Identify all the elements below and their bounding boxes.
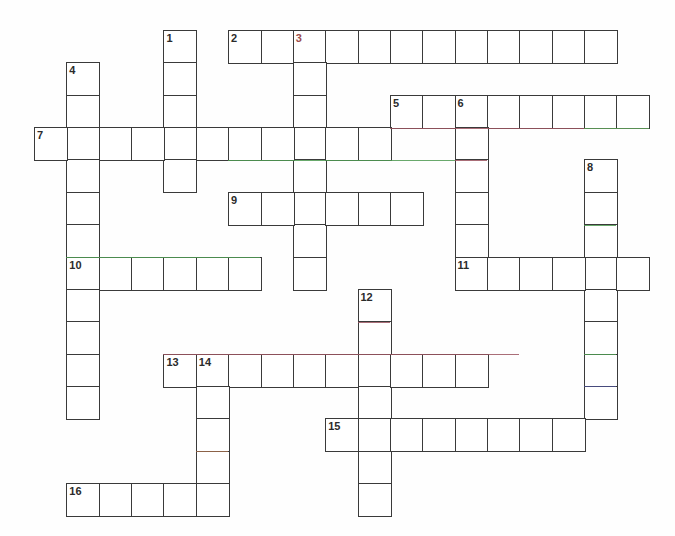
crossword-cell[interactable] — [196, 418, 230, 452]
crossword-cell[interactable] — [163, 95, 197, 129]
crossword-cell[interactable] — [66, 95, 100, 129]
crossword-grid[interactable]: 12345678910111213141516 — [0, 0, 675, 536]
crossword-cell[interactable] — [293, 354, 327, 388]
crossword-cell[interactable] — [228, 127, 262, 161]
crossword-cell[interactable] — [131, 127, 165, 161]
crossword-cell[interactable] — [616, 95, 650, 129]
clue-number: 5 — [393, 97, 399, 109]
crossword-cell[interactable] — [228, 354, 262, 388]
crossword-cell[interactable] — [163, 257, 197, 291]
crossword-cell[interactable] — [455, 224, 489, 258]
crossword-cell[interactable] — [293, 127, 327, 161]
crossword-cell[interactable] — [455, 159, 489, 193]
crossword-cell[interactable] — [390, 354, 424, 388]
crossword-cell[interactable] — [196, 451, 230, 485]
crossword-cell[interactable] — [66, 192, 100, 226]
clue-number: 6 — [458, 97, 464, 109]
crossword-cell[interactable] — [390, 192, 424, 226]
clue-number: 11 — [458, 259, 470, 271]
crossword-cell[interactable] — [552, 95, 586, 129]
crossword-cell[interactable] — [261, 192, 295, 226]
crossword-cell[interactable] — [455, 30, 489, 64]
crossword-cell[interactable] — [584, 289, 618, 323]
crossword-cell[interactable] — [325, 354, 359, 388]
crossword-cell[interactable] — [196, 386, 230, 420]
crossword-cell[interactable] — [325, 30, 359, 64]
crossword-cell[interactable] — [455, 354, 489, 388]
crossword-cell[interactable] — [487, 30, 521, 64]
crossword-cell[interactable] — [131, 483, 165, 517]
crossword-cell[interactable] — [66, 321, 100, 355]
crossword-cell[interactable] — [358, 127, 392, 161]
crossword-cell[interactable] — [519, 95, 553, 129]
crossword-cell[interactable] — [293, 159, 327, 193]
crossword-cell[interactable] — [261, 127, 295, 161]
crossword-cell[interactable] — [261, 354, 295, 388]
crossword-cell[interactable] — [196, 127, 230, 161]
crossword-cell[interactable] — [519, 257, 553, 291]
crossword-cell[interactable] — [358, 386, 392, 420]
crossword-cell[interactable] — [163, 127, 197, 161]
crossword-cell[interactable] — [519, 418, 553, 452]
crossword-cell[interactable] — [358, 192, 392, 226]
crossword-cell[interactable] — [163, 62, 197, 96]
crossword-cell[interactable] — [487, 257, 521, 291]
crossword-cell[interactable] — [66, 127, 100, 161]
crossword-cell[interactable] — [552, 257, 586, 291]
crossword-cell[interactable] — [99, 483, 133, 517]
crossword-cell[interactable] — [584, 321, 618, 355]
crossword-cell[interactable] — [390, 418, 424, 452]
crossword-cell[interactable] — [358, 354, 392, 388]
crossword-cell[interactable] — [422, 418, 456, 452]
crossword-cell[interactable] — [584, 224, 618, 258]
crossword-cell[interactable] — [358, 418, 392, 452]
crossword-cell[interactable] — [261, 30, 295, 64]
crossword-cell[interactable] — [390, 30, 424, 64]
clue-number: 15 — [328, 420, 340, 432]
crossword-cell[interactable] — [422, 95, 456, 129]
crossword-cell[interactable] — [422, 354, 456, 388]
crossword-cell[interactable] — [66, 386, 100, 420]
crossword-cell[interactable] — [163, 159, 197, 193]
crossword-cell[interactable] — [99, 127, 133, 161]
crossword-cell[interactable] — [293, 62, 327, 96]
crossword-cell[interactable] — [584, 386, 618, 420]
crossword-cell[interactable] — [293, 224, 327, 258]
crossword-cell[interactable] — [66, 289, 100, 323]
crossword-cell[interactable] — [487, 418, 521, 452]
crossword-cell[interactable] — [422, 30, 456, 64]
crossword-cell[interactable] — [584, 95, 618, 129]
crossword-cell[interactable] — [293, 257, 327, 291]
crossword-cell[interactable] — [358, 483, 392, 517]
crossword-cell[interactable] — [66, 354, 100, 388]
crossword-cell[interactable] — [519, 30, 553, 64]
crossword-cell[interactable] — [455, 418, 489, 452]
crossword-cell[interactable] — [131, 257, 165, 291]
crossword-cell[interactable] — [196, 483, 230, 517]
crossword-cell[interactable] — [358, 30, 392, 64]
crossword-cell[interactable] — [358, 451, 392, 485]
crossword-cell[interactable] — [196, 257, 230, 291]
crossword-cell[interactable] — [358, 321, 392, 355]
crossword-cell[interactable] — [66, 159, 100, 193]
crossword-cell[interactable] — [552, 30, 586, 64]
crossword-cell[interactable] — [584, 192, 618, 226]
crossword-cell[interactable] — [325, 127, 359, 161]
clue-number: 4 — [69, 64, 75, 76]
crossword-cell[interactable] — [228, 257, 262, 291]
crossword-cell[interactable] — [99, 257, 133, 291]
crossword-cell[interactable] — [487, 95, 521, 129]
crossword-cell[interactable] — [293, 192, 327, 226]
crossword-cell[interactable] — [66, 224, 100, 258]
crossword-cell[interactable] — [455, 192, 489, 226]
crossword-cell[interactable] — [325, 192, 359, 226]
crossword-cell[interactable] — [616, 257, 650, 291]
crossword-cell[interactable] — [455, 127, 489, 161]
crossword-cell[interactable] — [163, 483, 197, 517]
crossword-cell[interactable] — [584, 257, 618, 291]
crossword-cell[interactable] — [584, 30, 618, 64]
crossword-cell[interactable] — [552, 418, 586, 452]
crossword-cell[interactable] — [584, 354, 618, 388]
crossword-cell[interactable] — [293, 95, 327, 129]
crossword-page: 12345678910111213141516 — [0, 0, 675, 536]
